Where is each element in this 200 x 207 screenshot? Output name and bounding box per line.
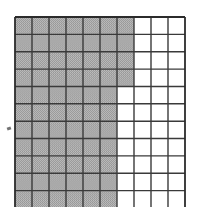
shaded-cell-run (15, 52, 134, 69)
shaded-cell-run (15, 69, 134, 86)
shaded-cell-run (15, 34, 134, 51)
grid-container (15, 17, 185, 207)
grid-svg (15, 17, 185, 207)
stray-ink-mark (7, 126, 12, 130)
shaded-region (15, 17, 134, 207)
shaded-cell-run (15, 17, 134, 34)
figure-canvas (0, 0, 200, 207)
